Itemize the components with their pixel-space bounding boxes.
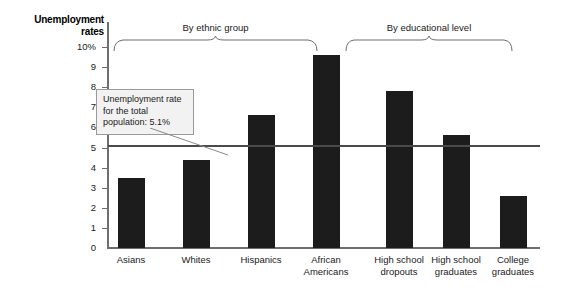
y-tick-label: 2 xyxy=(62,203,96,213)
bar xyxy=(443,135,470,248)
y-axis-title-line2: rates xyxy=(81,26,104,37)
y-tick-label: 3 xyxy=(62,183,96,193)
bar xyxy=(183,160,210,248)
bar xyxy=(386,91,413,248)
bar xyxy=(118,178,145,248)
group-label-education: By educational level xyxy=(345,22,513,33)
group-label-ethnic: By ethnic group xyxy=(113,22,318,33)
y-tick-label: 9 xyxy=(62,62,96,72)
bar xyxy=(313,55,340,248)
x-category-label: AfricanAmericans xyxy=(284,254,368,277)
y-axis-title-line1: Unemployment xyxy=(34,14,104,25)
y-tick-label: 5 xyxy=(62,143,96,153)
y-tick-label: 8 xyxy=(62,82,96,92)
bar xyxy=(500,196,527,248)
y-tick-label: 1 xyxy=(62,223,96,233)
reference-line-total-population xyxy=(108,145,540,147)
bar xyxy=(248,115,275,248)
y-tick-label: 6 xyxy=(62,122,96,132)
y-tick-label: 0 xyxy=(62,243,96,253)
y-axis-title: Unemployment rates xyxy=(8,14,104,38)
x-category-label: Collegegraduates xyxy=(471,254,555,277)
unemployment-rates-chart: Unemployment rates 10%9876543210 By ethn… xyxy=(0,0,562,296)
y-tick-label: 4 xyxy=(62,163,96,173)
plot-area xyxy=(108,47,540,248)
y-tick-label: 10% xyxy=(62,42,96,52)
callout-total-population: Unemployment rate for the total populati… xyxy=(96,89,194,135)
y-tick-label: 7 xyxy=(62,102,96,112)
